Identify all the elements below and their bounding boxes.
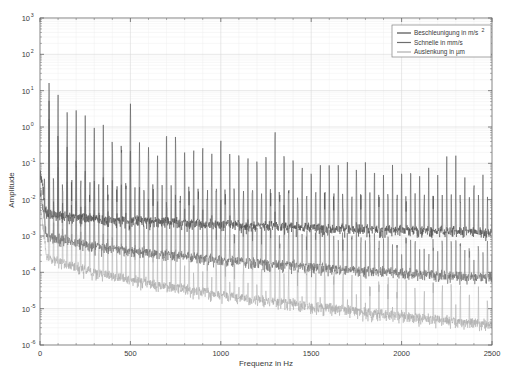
x-tick-label: 500: [124, 349, 137, 358]
svg-text:-1: -1: [31, 157, 36, 163]
x-tick-label: 2500: [484, 349, 501, 358]
svg-text:1: 1: [31, 85, 34, 91]
figure-container: 05001000150020002500 10310210110010-110-…: [0, 0, 506, 378]
svg-text:-5: -5: [31, 303, 36, 309]
svg-text:0: 0: [31, 121, 34, 127]
legend-label-2: Schnelle in mm/s: [414, 39, 463, 46]
svg-text:10: 10: [22, 341, 30, 350]
x-tick-label: 0: [38, 349, 42, 358]
y-axis-label: Amplitude: [7, 172, 16, 208]
x-axis-label: Frequenz in Hz: [239, 359, 293, 368]
x-tick-label: 1500: [303, 349, 320, 358]
svg-text:10: 10: [22, 268, 30, 277]
svg-text:10: 10: [22, 232, 30, 241]
svg-text:10: 10: [22, 159, 30, 168]
legend: Beschleunigung in m/s2Schnelle in mm/sAu…: [392, 25, 491, 57]
svg-text:2: 2: [31, 48, 34, 54]
x-tick-label: 1000: [212, 349, 229, 358]
x-tick-label: 2000: [393, 349, 410, 358]
legend-label-3: Auslenkung in µm: [414, 48, 465, 56]
spectrum-plot: 05001000150020002500 10310210110010-110-…: [0, 0, 506, 378]
svg-text:10: 10: [22, 50, 30, 59]
svg-text:-3: -3: [31, 230, 36, 236]
legend-label-1: Beschleunigung in m/s: [414, 29, 478, 37]
svg-text:10: 10: [22, 87, 30, 96]
svg-text:-6: -6: [31, 339, 36, 345]
svg-text:10: 10: [22, 305, 30, 314]
legend-superscript-1: 2: [482, 27, 485, 33]
svg-text:-4: -4: [31, 266, 36, 272]
svg-text:-2: -2: [31, 194, 36, 200]
svg-text:10: 10: [22, 123, 30, 132]
svg-text:3: 3: [31, 12, 34, 18]
svg-text:10: 10: [22, 196, 30, 205]
svg-text:10: 10: [22, 14, 30, 23]
